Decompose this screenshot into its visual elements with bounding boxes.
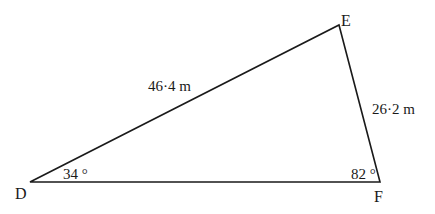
- vertex-label-f: F: [374, 189, 383, 205]
- vertex-label-e: E: [341, 13, 351, 29]
- angle-label-d: 34 °: [63, 167, 88, 182]
- side-label-ef: 26·2 m: [372, 102, 415, 117]
- vertex-label-d: D: [15, 186, 27, 202]
- triangle-def: [30, 25, 380, 182]
- angle-label-f: 82 °: [351, 167, 376, 182]
- side-label-de: 46·4 m: [148, 79, 191, 94]
